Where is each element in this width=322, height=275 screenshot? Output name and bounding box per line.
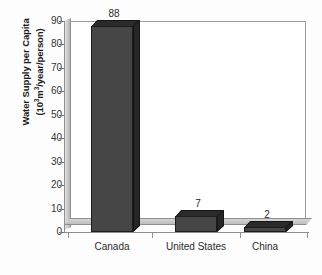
y-axis-tick-mark bbox=[59, 138, 64, 139]
y-axis-tick-mark bbox=[59, 209, 64, 210]
bar-canada[interactable] bbox=[91, 26, 133, 232]
y-axis-tick-mark bbox=[59, 68, 64, 69]
x-axis-category-label: Canada bbox=[67, 241, 157, 252]
bar-value-label: 2 bbox=[245, 210, 289, 220]
y-axis-tick-mark bbox=[59, 44, 64, 45]
bar-value-label: 88 bbox=[92, 9, 136, 19]
y-axis-tick-mark bbox=[59, 185, 64, 186]
bar-chart: Water Supply per Capita (103m3/year/pers… bbox=[0, 0, 322, 275]
y-axis-line bbox=[64, 21, 65, 233]
plot-left-wall bbox=[64, 18, 71, 230]
bar-united-states[interactable] bbox=[175, 216, 217, 232]
y-axis-tick-mark bbox=[59, 91, 64, 92]
bar-front-face bbox=[91, 26, 133, 232]
x-axis-tick-mark bbox=[68, 232, 69, 238]
bar-front-face bbox=[175, 216, 217, 232]
bar-value-label: 7 bbox=[176, 199, 220, 209]
x-axis-tick-mark bbox=[240, 232, 241, 238]
y-axis-tick-mark bbox=[59, 115, 64, 116]
bar-front-face bbox=[244, 227, 286, 232]
x-axis-line bbox=[64, 232, 309, 233]
y-axis-tick-mark bbox=[59, 162, 64, 163]
y-axis-title-line1: Water Supply per Capita bbox=[20, 18, 32, 125]
y-axis-tick-mark bbox=[59, 21, 64, 22]
x-axis-tick-mark bbox=[152, 232, 153, 238]
x-axis-category-label: China bbox=[220, 241, 310, 252]
bar-side-face bbox=[133, 19, 140, 232]
x-axis-tick-mark bbox=[307, 232, 308, 238]
bar-china[interactable] bbox=[244, 227, 286, 232]
y-axis-tick-mark bbox=[59, 232, 64, 233]
